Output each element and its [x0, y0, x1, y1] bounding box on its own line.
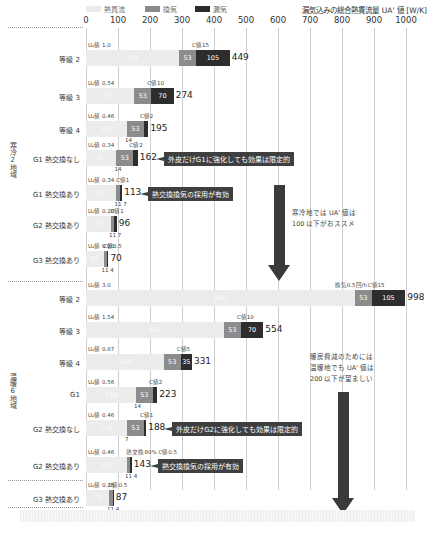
segment-heat-transmission: 95 — [86, 185, 116, 201]
bar-total: 188 — [148, 422, 165, 432]
stacked-bar: 55 — [86, 251, 108, 267]
ua-value: Uₐ値 0.87 — [88, 345, 114, 353]
row-label: G2 熱交換あり — [0, 220, 80, 230]
segment-air-leakage: 105 — [196, 50, 230, 66]
segment-air-leakage — [130, 457, 131, 473]
ua-value: Uₐ値 0.46 — [88, 448, 114, 456]
section-divider — [8, 27, 83, 28]
segment-air-leakage — [144, 420, 146, 436]
region-label-warm: 温暖6地域 — [8, 373, 16, 409]
below-values: 11 7 — [109, 232, 121, 238]
row-label: G3 熱交換あり — [0, 494, 80, 504]
legend-label: 漏気 — [213, 4, 227, 14]
segment-ventilation: 53 — [127, 121, 144, 137]
segment-heat-transmission: 156 — [86, 387, 136, 403]
x-tick-label: 700 — [302, 15, 318, 25]
c-value: C値2 — [140, 112, 153, 120]
below-values: 11 4 — [125, 473, 137, 479]
stacked-bar: 128 — [86, 457, 132, 473]
stacked-bar: 95 — [86, 185, 122, 201]
segment-air-leakage — [153, 387, 157, 403]
bar-total: 449 — [232, 52, 249, 62]
bar-total: 143 — [134, 459, 151, 469]
segment-ventilation: 53 — [164, 354, 181, 370]
segment-ventilation: 53 — [116, 150, 133, 166]
segment-ventilation: 53 — [179, 50, 196, 66]
c-value: C値5 — [177, 345, 190, 353]
c-value: C値15 — [368, 281, 385, 289]
ua-value: Uₐ値 0.34 — [88, 176, 114, 184]
segment-air-leakage: 70 — [241, 322, 263, 338]
segment-ventilation: 53 — [224, 322, 241, 338]
section-divider — [8, 507, 83, 508]
stacked-bar: 29153105 — [86, 50, 230, 66]
segment-ventilation: 53 — [127, 420, 144, 436]
c-value: C値0.5 — [109, 481, 128, 489]
c-value: C値1 — [116, 176, 129, 184]
stacked-bar: 84053105 — [86, 290, 405, 306]
callout-note: 熱交換換気の採用が有効 — [158, 459, 243, 473]
segment-heat-transmission: 840 — [86, 290, 355, 306]
ventilation-rate: 換気0.5回/h — [335, 281, 367, 289]
arrow-shaft-warm — [338, 392, 349, 500]
bar-total: 274 — [176, 90, 193, 100]
segment-heat-transmission: 243 — [86, 354, 164, 370]
segment-air-leakage — [113, 490, 114, 506]
x-tick-label: 200 — [142, 15, 158, 25]
x-tick-label: 900 — [366, 15, 382, 25]
bar-total: 195 — [150, 123, 167, 133]
segment-air-leakage: 35 — [181, 354, 192, 370]
stacked-bar: 12853 — [86, 121, 148, 137]
segment-ventilation: 53 — [134, 88, 151, 104]
ua-value: Uₐ値 0.54 — [88, 79, 114, 87]
row-label: G2 熱交換なし — [0, 424, 80, 434]
advice-line: 暖房費減のためには — [310, 352, 374, 363]
stacked-bar: 78 — [86, 216, 117, 232]
segment-heat-transmission: 55 — [86, 251, 104, 267]
c-value: C値2 — [129, 141, 142, 149]
advice-line: 寒冷地では UA' 値は — [292, 208, 356, 219]
c-value: C値1 — [140, 411, 153, 419]
row-label: G2 熱交換あり — [0, 461, 80, 471]
bar-total: 998 — [407, 292, 424, 302]
segment-air-leakage: 70 — [151, 88, 173, 104]
stacked-bar: 72 — [86, 490, 114, 506]
row-label: 等級 2 — [0, 294, 80, 304]
advice-line: 温暖地でも UA' 値は — [310, 363, 374, 374]
stacked-bar: 1515370 — [86, 88, 174, 104]
gridline — [310, 28, 311, 490]
legend-item: 熱貫流 — [86, 4, 125, 14]
gridline — [246, 28, 247, 490]
x-tick-label: 800 — [334, 15, 350, 25]
legend-label: 熱貫流 — [104, 4, 125, 14]
x-tick-label: 400 — [206, 15, 222, 25]
row-label: 等級 4 — [0, 125, 80, 135]
section-divider — [8, 281, 83, 282]
bar-total: 87 — [116, 492, 127, 502]
legend-item: 漏気 — [195, 4, 227, 14]
c-value: C値15 — [192, 41, 209, 49]
segment-air-leakage — [144, 121, 148, 137]
x-tick-label: 300 — [174, 15, 190, 25]
stacked-bar: 15653 — [86, 387, 157, 403]
x-tick-label: 0 — [83, 15, 88, 25]
segment-air-leakage — [133, 150, 137, 166]
callout-note: 外皮だけG2に強化しても効果は限定的 — [172, 422, 302, 436]
bar-total: 162 — [140, 152, 157, 162]
segment-heat-transmission: 151 — [86, 88, 134, 104]
chart-title: 漏気込みの総合熱貫流量 UA' 値 [W/K] — [302, 4, 427, 15]
ua-value: Uₐ値 3.0 — [88, 281, 111, 289]
segment-ventilation: 53 — [355, 290, 372, 306]
row-label: 等級 3 — [0, 92, 80, 102]
legend-item: 換気 — [145, 4, 177, 14]
legend-swatch — [195, 6, 210, 12]
ua-value: Uₐ値 1.0 — [88, 41, 111, 49]
segment-heat-transmission: 128 — [86, 420, 127, 436]
x-tick-label: 500 — [238, 15, 254, 25]
bar-total: 331 — [194, 356, 211, 366]
section-divider — [8, 480, 83, 481]
ua-value: Uₐ値 0.46 — [88, 411, 114, 419]
stacked-bar: 9553 — [86, 150, 138, 166]
stacked-bar: 2435335 — [86, 354, 192, 370]
gridline — [374, 28, 375, 490]
